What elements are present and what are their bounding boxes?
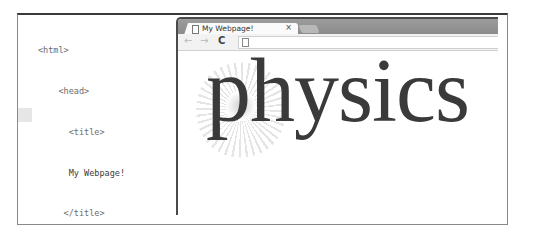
browser-titlebar: My Webpage! × (178, 19, 498, 34)
page-content: physics (178, 51, 498, 215)
tab-title: My Webpage! (202, 24, 253, 33)
code-line: My Webpage! (38, 167, 192, 181)
browser-window: My Webpage! × ← → C physics (176, 17, 498, 215)
physics-image-text: physics (206, 39, 469, 142)
code-editor[interactable]: <html> <head> <title> My Webpage! </titl… (38, 17, 192, 235)
code-line: <html> (38, 44, 192, 58)
code-line: <title> (38, 126, 192, 140)
page-icon (192, 25, 199, 34)
code-line: </title> (38, 207, 192, 221)
current-line-highlight (18, 108, 32, 122)
new-tab-button[interactable] (299, 25, 320, 33)
close-tab-icon[interactable]: × (285, 23, 292, 32)
back-icon[interactable]: ← (184, 35, 192, 46)
code-line: <head> (38, 85, 192, 99)
